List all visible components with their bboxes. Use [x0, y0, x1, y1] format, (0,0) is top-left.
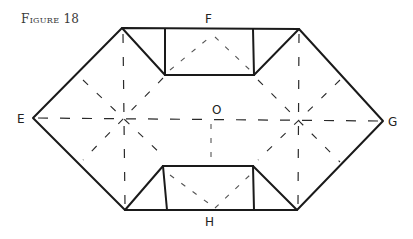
- top-rect-diag-right: [215, 37, 250, 70]
- crease-horizontal: [38, 118, 378, 121]
- top-rect-right: [253, 29, 254, 75]
- crease-diag-left-1: [83, 80, 163, 156]
- bottom-flap-left-edge: [125, 166, 163, 210]
- bottom-rect-diag-right: [215, 175, 250, 208]
- top-flap-left-edge: [122, 28, 165, 75]
- label-f: F: [205, 12, 212, 26]
- label-o: O: [212, 103, 221, 117]
- top-flap-right-edge: [254, 29, 299, 75]
- label-e: E: [17, 112, 25, 126]
- fold-diagram: F E G H O: [0, 0, 413, 239]
- top-rect-diag-left: [170, 37, 210, 70]
- bottom-flap-right-edge: [253, 166, 297, 210]
- label-h: H: [205, 215, 214, 229]
- bottom-rect-right: [253, 166, 254, 210]
- label-g: G: [388, 115, 397, 129]
- bottom-rect-diag-left: [170, 175, 215, 208]
- bottom-rect-left: [163, 166, 167, 210]
